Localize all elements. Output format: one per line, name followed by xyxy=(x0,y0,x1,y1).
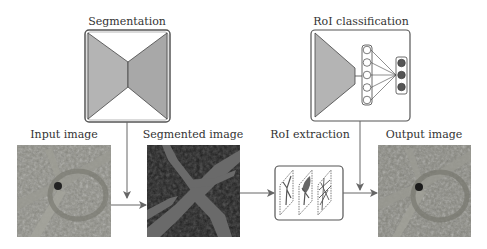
hidden-unit xyxy=(363,71,371,79)
roi-classification-cnn-box xyxy=(311,30,410,121)
output-unit xyxy=(398,83,406,91)
hidden-unit xyxy=(363,46,371,54)
segmented-image xyxy=(147,145,240,237)
hidden-unit xyxy=(363,96,371,104)
hidden-unit xyxy=(363,59,371,67)
input-image xyxy=(17,145,111,237)
segmentation-cnn-box xyxy=(85,30,170,122)
pipeline-diagram xyxy=(0,0,487,249)
output-unit xyxy=(398,71,406,79)
hidden-unit xyxy=(363,84,371,92)
output-image xyxy=(378,145,471,237)
output-unit xyxy=(398,59,406,67)
roi-extraction-box xyxy=(275,166,343,220)
